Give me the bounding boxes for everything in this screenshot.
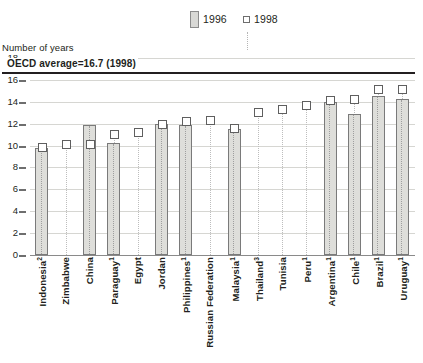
x-axis-label-footnote: 1 (373, 257, 380, 261)
marker-1998[interactable] (158, 120, 167, 129)
bar-1996[interactable] (396, 99, 409, 256)
bar-1996[interactable] (228, 129, 241, 255)
x-axis-label: Russian Federation (198, 257, 222, 357)
x-axis-label-text: Zimbabwe (61, 257, 71, 305)
bar-1996[interactable] (35, 148, 48, 255)
bar-1996[interactable] (324, 102, 337, 255)
x-axis-label-text: Indonesia2 (37, 257, 48, 306)
marker-1998[interactable] (86, 140, 95, 149)
marker-1998[interactable] (254, 108, 263, 117)
gridline-0 (30, 255, 415, 256)
x-axis-category-labels: Indonesia2ZimbabweChinaParaguay1EgyptJor… (30, 257, 415, 357)
x-axis-label-text: Chile1 (349, 257, 360, 285)
x-axis-label: China (78, 257, 102, 357)
x-axis-label: Malaysia1 (223, 257, 247, 357)
x-axis-label: Tunisia (271, 257, 295, 357)
bar-1996[interactable] (179, 125, 192, 255)
bar-1996[interactable] (155, 124, 168, 255)
y-tick-mark-10 (19, 146, 26, 148)
y-tick-mark-2 (19, 233, 26, 235)
bar-group[interactable] (367, 58, 391, 255)
bar-group[interactable] (343, 58, 367, 255)
x-axis-label-footnote: 1 (228, 257, 235, 261)
marker-1998[interactable] (278, 105, 287, 114)
bar-group[interactable] (78, 58, 102, 255)
bar-group[interactable] (319, 58, 343, 255)
x-axis-label-footnote: 1 (108, 257, 115, 261)
x-axis-label-text: Paraguay1 (109, 257, 120, 305)
bar-group[interactable] (150, 58, 174, 255)
marker-1998[interactable] (110, 130, 119, 139)
x-axis-label: Paraguay1 (102, 257, 126, 357)
marker-1998[interactable] (38, 143, 47, 152)
x-axis-label-text: China (85, 257, 95, 284)
x-axis-label: Thailand3 (247, 257, 271, 357)
bar-1996[interactable] (348, 114, 361, 255)
bar-group[interactable] (198, 58, 222, 255)
chart-legend: 1996 1998 (0, 8, 423, 30)
bar-group[interactable] (102, 58, 126, 255)
bar-group[interactable] (247, 58, 271, 255)
x-axis-label-footnote: 1 (348, 257, 355, 261)
marker-stem-1998 (66, 144, 67, 255)
y-tick-mark-14 (19, 102, 26, 104)
x-axis-label-text: Argentina1 (325, 257, 336, 306)
marker-stem-1998 (138, 132, 139, 255)
marker-1998[interactable] (350, 95, 359, 104)
x-axis-label-footnote: 1 (300, 257, 307, 261)
x-axis-label-text: Malaysia1 (229, 257, 240, 302)
y-tick-label-12: 12 (2, 118, 18, 129)
bar-group[interactable] (30, 58, 54, 255)
y-tick-mark-8 (19, 167, 26, 169)
bar-group[interactable] (223, 58, 247, 255)
legend-label-1998: 1998 (254, 13, 278, 25)
bar-group[interactable] (295, 58, 319, 255)
marker-1998[interactable] (62, 140, 71, 149)
y-tick-label-16: 16 (2, 74, 18, 85)
y-tick-label-0: 0 (2, 249, 18, 260)
x-axis-label-text: Peru1 (301, 257, 312, 283)
x-axis-label-footnote: 2 (36, 257, 43, 261)
bar-group[interactable] (126, 58, 150, 255)
x-axis-label: Brazil1 (367, 257, 391, 357)
bar-group[interactable] (391, 58, 415, 255)
x-axis-label-text: Tunisia (278, 257, 288, 291)
marker-1998[interactable] (374, 85, 383, 94)
x-axis-label-text: Thailand3 (253, 257, 264, 301)
bar-1996[interactable] (372, 96, 385, 255)
x-axis-label: Zimbabwe (54, 257, 78, 357)
x-axis-label-text: Uruguay1 (398, 257, 409, 300)
marker-1998[interactable] (206, 116, 215, 125)
bar-group[interactable] (271, 58, 295, 255)
x-axis-label-text: Brazil1 (374, 257, 385, 288)
legend-label-1996: 1996 (203, 13, 227, 25)
marker-1998[interactable] (182, 117, 191, 126)
y-tick-label-10: 10 (2, 140, 18, 151)
bar-group[interactable] (174, 58, 198, 255)
x-axis-label: Jordan (150, 257, 174, 357)
legend-swatch-1996-icon (190, 11, 199, 28)
legend-entry-1996: 1996 (190, 8, 227, 30)
marker-1998[interactable] (326, 96, 335, 105)
x-axis-label-text: Russian Federation (206, 257, 216, 348)
legend-entry-1998: 1998 (243, 8, 278, 30)
marker-1998[interactable] (302, 101, 311, 110)
x-axis-label-footnote: 1 (324, 257, 331, 261)
x-axis-label-footnote: 1 (180, 257, 187, 261)
marker-1998[interactable] (134, 128, 143, 137)
marker-1998[interactable] (398, 85, 407, 94)
x-axis-label-text: Philippines1 (181, 257, 192, 313)
x-axis-label: Indonesia2 (30, 257, 54, 357)
legend-swatch-1998-icon (243, 16, 250, 23)
bar-1996[interactable] (107, 143, 120, 255)
marker-stem-1998 (306, 105, 307, 255)
y-tick-mark-16 (19, 80, 26, 82)
x-axis-label: Philippines1 (174, 257, 198, 357)
bar-group[interactable] (54, 58, 78, 255)
plot-area: 024681012141618OECD average=16.7 (1998) (30, 58, 415, 255)
marker-1998[interactable] (230, 124, 239, 133)
x-axis-label: Chile1 (343, 257, 367, 357)
y-tick-label-8: 8 (2, 161, 18, 172)
x-axis-label: Argentina1 (319, 257, 343, 357)
marker-stem-1998 (282, 109, 283, 255)
